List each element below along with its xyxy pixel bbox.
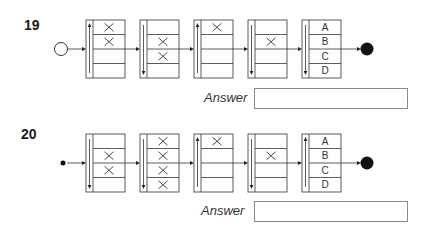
arrowhead-icon xyxy=(298,47,302,51)
arrowhead-icon xyxy=(357,47,361,51)
arrowhead-icon xyxy=(357,161,361,165)
start-node-dot-icon xyxy=(61,161,66,166)
cell-label: C xyxy=(321,165,328,176)
answer-label-20: Answer xyxy=(201,203,244,218)
cell-label: A xyxy=(322,136,329,147)
cell-label: D xyxy=(321,179,328,190)
sequence-diagrams: ABCDABCD xyxy=(0,0,424,228)
answer-input-19[interactable] xyxy=(254,88,408,109)
cell-label: D xyxy=(321,65,328,76)
answer-input-20[interactable] xyxy=(254,201,408,222)
end-node-filled-circle-icon xyxy=(361,43,374,56)
cell-label: B xyxy=(322,36,329,47)
arrowhead-icon xyxy=(82,161,86,165)
arrowhead-icon xyxy=(190,161,194,165)
arrowhead-icon xyxy=(136,47,140,51)
start-node-hollow-circle-icon xyxy=(55,43,68,56)
answer-label-19: Answer xyxy=(204,90,247,105)
arrowhead-icon xyxy=(298,161,302,165)
arrowhead-icon xyxy=(244,47,248,51)
end-node-filled-circle-icon xyxy=(361,157,374,170)
cell-label: B xyxy=(322,150,329,161)
arrowhead-icon xyxy=(136,161,140,165)
arrowhead-icon xyxy=(190,47,194,51)
arrowhead-icon xyxy=(82,47,86,51)
cell-label: A xyxy=(322,22,329,33)
cell-label: C xyxy=(321,51,328,62)
arrowhead-icon xyxy=(244,161,248,165)
